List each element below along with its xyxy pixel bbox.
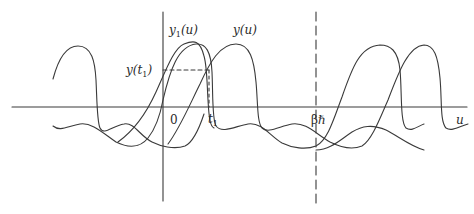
- label-y-u: y(u): [233, 24, 257, 36]
- label-y1-u: y1(u): [169, 24, 198, 39]
- label-u-axis: u: [456, 114, 464, 126]
- label-beta-h: βℏ: [311, 114, 326, 126]
- path-integral-diagram: y1(u) y(u) y(t1) 0 t1 βℏ u: [0, 0, 474, 214]
- label-origin: 0: [170, 114, 178, 126]
- label-y-t1: y(t1): [126, 64, 152, 79]
- curve-y-u: [53, 44, 424, 148]
- label-t1: t1: [208, 113, 218, 128]
